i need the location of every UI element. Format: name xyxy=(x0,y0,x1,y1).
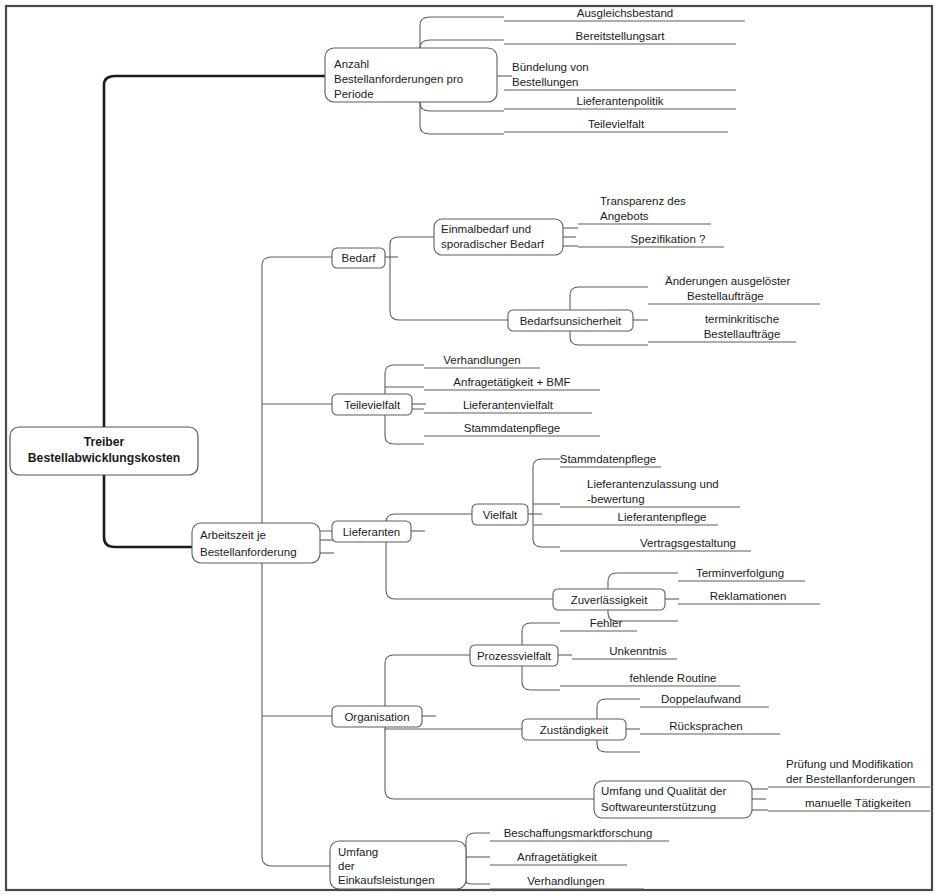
leaf-lieferantenpflege[interactable]: Lieferantenpflege xyxy=(560,511,718,525)
leaf-aenderungen-bestellauftraege[interactable]: Änderungen ausgelöster Bestellaufträge xyxy=(648,275,820,304)
leaf-unkenntnis[interactable]: Unkenntnis xyxy=(572,645,677,659)
branch-tv-verhandlungen xyxy=(385,365,424,373)
leaf-buendelung-bestellungen[interactable]: Bündelung von Bestellungen xyxy=(504,61,736,90)
node-root-line2: Bestellabwicklungskosten xyxy=(28,451,180,465)
leaf-doppelaufwand[interactable]: Doppelaufwand xyxy=(640,693,769,707)
leaf-lieferantenzulassung-bewertung[interactable]: Lieferantenzulassung und -bewertung xyxy=(560,478,740,507)
node-teilevielfalt[interactable]: Teilevielfalt xyxy=(332,394,412,415)
leaf-transparenz-line2: Angebots xyxy=(600,210,649,222)
node-bedarfsunsicherheit[interactable]: Bedarfsunsicherheit xyxy=(508,310,633,331)
node-umfang-line1: Umfang xyxy=(338,846,378,858)
branch-umfang-children xyxy=(466,833,490,884)
node-arbeitszeit-line2: Bestellanforderung xyxy=(200,546,297,558)
leaf-terminverfolgung[interactable]: Terminverfolgung xyxy=(678,567,805,581)
leaf-stammdatenpflege-tv[interactable]: Stammdatenpflege xyxy=(424,422,600,436)
node-prozessvielfalt[interactable]: Prozessvielfalt xyxy=(470,645,558,666)
mindmap-svg: Anzahl Bestellanforderungen pro Periode … xyxy=(0,0,944,896)
leaf-buendelung-line1: Bündelung von xyxy=(512,61,589,73)
branch-ue-beschaffung xyxy=(466,833,490,866)
leaf-anfragetaetigkeit-bmf[interactable]: Anfragetätigkeit + BMF xyxy=(424,376,600,390)
leaf-fehlende-routine[interactable]: fehlende Routine xyxy=(560,672,740,686)
leaf-zulassung-line2: -bewertung xyxy=(587,493,645,505)
node-arbeitszeit-line1: Arbeitszeit je xyxy=(200,529,266,541)
node-umfang-line2: der xyxy=(338,860,355,872)
leaf-terminkritische-line1: terminkritische xyxy=(705,313,779,325)
leaf-lieferantenvielfalt-label: Lieferantenvielfalt xyxy=(463,399,554,411)
node-bedarfsunsicherheit-label: Bedarfsunsicherheit xyxy=(520,315,622,327)
node-anzahl-line3: Periode xyxy=(334,88,374,100)
node-zuverlaessigkeit[interactable]: Zuverlässigkeit xyxy=(553,589,665,610)
branch-ue-verhandlungen xyxy=(466,866,490,884)
node-lieferanten-label: Lieferanten xyxy=(343,526,401,538)
leaf-ausgleichsbestand[interactable]: Ausgleichsbestand xyxy=(504,7,745,21)
leaf-manuelle-taetigkeiten[interactable]: manuelle Tätigkeiten xyxy=(768,797,930,811)
branch-einmalbedarf-children xyxy=(562,228,578,246)
node-einmalbedarf-sporadischer-bedarf[interactable]: Einmalbedarf und sporadischer Bedarf xyxy=(434,219,563,255)
leaf-anfragetaetigkeit-ue[interactable]: Anfragetätigkeit xyxy=(490,851,627,865)
leaf-terminkritische-line2: Bestellaufträge xyxy=(704,328,781,340)
node-umfang-qualitaet-software[interactable]: Umfang und Qualität der Softwareunterstü… xyxy=(594,781,752,818)
node-einmalbedarf-line1: Einmalbedarf und xyxy=(441,223,531,235)
branch-bedarf-einmalbedarf xyxy=(390,237,434,257)
node-lieferanten[interactable]: Lieferanten xyxy=(332,521,411,542)
leaf-spezifikation[interactable]: Spezifikation ? xyxy=(578,233,724,247)
branch-software-children xyxy=(752,789,768,810)
node-bedarf[interactable]: Bedarf xyxy=(332,248,385,268)
node-software-line1: Umfang und Qualität der xyxy=(601,785,726,797)
leaf-anfragetaetigkeit-label: Anfragetätigkeit xyxy=(517,851,598,863)
leaf-bereitstellungsart[interactable]: Bereitstellungsart xyxy=(504,30,736,44)
leaf-lieferantenvielfalt[interactable]: Lieferantenvielfalt xyxy=(424,399,592,413)
leaf-lieferantenpolitik[interactable]: Lieferantenpolitik xyxy=(504,95,736,109)
leaf-bereitstellungsart-label: Bereitstellungsart xyxy=(576,30,666,42)
leaf-lieferantenpflege-label: Lieferantenpflege xyxy=(618,511,707,523)
leaf-reklamationen[interactable]: Reklamationen xyxy=(678,590,820,604)
leaf-reklamationen-label: Reklamationen xyxy=(710,590,787,602)
node-umfang-einkaufsleistungen[interactable]: Umfang der Einkaufsleistungen xyxy=(330,841,466,889)
node-root-treiber[interactable]: Treiber Bestellabwicklungskosten xyxy=(10,427,198,475)
branch-bedarf-unsicherheit xyxy=(390,257,508,320)
leaf-stammdatenpflege-v-label: Stammdatenpflege xyxy=(560,453,657,465)
node-anzahl-line2: Bestellanforderungen pro xyxy=(334,73,463,85)
node-bedarf-label: Bedarf xyxy=(342,252,377,264)
branch-arbeitszeit-umfang xyxy=(262,716,330,866)
node-einmalbedarf-line2: sporadischer Bedarf xyxy=(441,238,545,250)
leaf-ruecksprachen[interactable]: Rücksprachen xyxy=(640,720,780,734)
leaf-verhandlungen-ue[interactable]: Verhandlungen xyxy=(490,875,644,889)
branch-arbeitszeit-bedarf xyxy=(262,257,332,265)
branch-org-prozessvielfalt xyxy=(385,655,470,663)
leaf-vertragsgestaltung-label: Vertragsgestaltung xyxy=(640,537,736,549)
leaf-verhandlungen-ue-label: Verhandlungen xyxy=(527,875,604,887)
node-organisation[interactable]: Organisation xyxy=(332,706,422,727)
leaf-aenderungen-line2: Bestellaufträge xyxy=(687,290,764,302)
leaf-lieferantenpolitik-label: Lieferantenpolitik xyxy=(577,95,664,107)
branch-vielfalt-children xyxy=(528,459,560,547)
node-organisation-label: Organisation xyxy=(344,711,409,723)
leaf-transparenz-angebots[interactable]: Transparenz des Angebots xyxy=(578,195,711,224)
node-zustaendigkeit[interactable]: Zuständigkeit xyxy=(522,719,626,740)
leaf-aenderungen-line1: Änderungen ausgelöster xyxy=(665,275,790,287)
leaf-verhandlungen-tv[interactable]: Verhandlungen xyxy=(424,354,540,368)
node-teilevielfalt-label: Teilevielfalt xyxy=(344,399,401,411)
node-vielfalt[interactable]: Vielfalt xyxy=(472,504,528,525)
leaf-terminkritische-bestellauftraege[interactable]: terminkritische Bestellaufträge xyxy=(648,313,796,342)
leaf-vertragsgestaltung[interactable]: Vertragsgestaltung xyxy=(560,537,751,551)
node-prozessvielfalt-label: Prozessvielfalt xyxy=(477,650,552,662)
leaf-spezifikation-label: Spezifikation ? xyxy=(631,233,706,245)
leaf-teilevielfalt-top[interactable]: Teilevielfalt xyxy=(504,118,728,132)
leaf-beschaffungsmarktforschung[interactable]: Beschaffungsmarktforschung xyxy=(490,827,669,841)
node-umfang-line3: Einkaufsleistungen xyxy=(338,874,435,886)
node-root-line1: Treiber xyxy=(84,435,125,449)
leaf-verhandlungen-tv-label: Verhandlungen xyxy=(443,354,520,366)
leaf-zulassung-line1: Lieferantenzulassung und xyxy=(587,478,719,490)
leaf-pruefung-modifikation[interactable]: Prüfung und Modifikation der Bestellanfo… xyxy=(768,758,930,787)
leaf-stammdatenpflege-vielfalt[interactable]: Stammdatenpflege xyxy=(560,453,661,467)
node-anzahl-bestellanforderungen[interactable]: Anzahl Bestellanforderungen pro Periode xyxy=(325,48,497,102)
leaf-fehler[interactable]: Fehler xyxy=(560,617,637,631)
leaf-stammdatenpflege-tv-label: Stammdatenpflege xyxy=(464,422,561,434)
leaf-buendelung-line2: Bestellungen xyxy=(512,76,579,88)
leaf-doppelaufwand-label: Doppelaufwand xyxy=(661,693,741,705)
node-arbeitszeit-bestellanforderung[interactable]: Arbeitszeit je Bestellanforderung xyxy=(192,523,320,563)
leaf-teilevielfalt-top-label: Teilevielfalt xyxy=(588,118,645,130)
leaf-terminverfolgung-label: Terminverfolgung xyxy=(696,567,784,579)
node-anzahl-line1: Anzahl xyxy=(334,58,369,70)
